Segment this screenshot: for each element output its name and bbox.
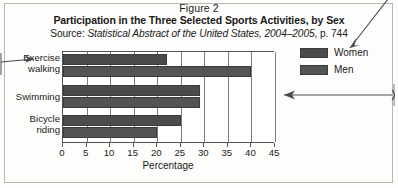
legend-entry-women: Women (300, 45, 386, 60)
legend-swatch-men (300, 65, 328, 75)
figure-heading: Figure 2 Participation in the Three Sele… (0, 2, 398, 40)
bar-group (63, 54, 274, 78)
source-prefix: Source: (50, 28, 87, 39)
bar-women (63, 115, 181, 126)
x-tick-label: 45 (262, 147, 286, 159)
bar-rect (63, 66, 251, 77)
x-tick-label: 25 (168, 147, 192, 159)
category-axis-labels: Exercisewalking Swimming Bicycleriding (0, 51, 60, 143)
x-tick-label: 15 (121, 147, 145, 159)
source-page: , p. 744 (315, 28, 348, 39)
x-tick-label: 0 (50, 147, 74, 159)
bar-women (63, 54, 167, 65)
bar-rect (63, 54, 167, 65)
legend-label-men: Men (334, 64, 353, 75)
legend-label-women: Women (334, 47, 368, 58)
category-label-line: Exercise (2, 52, 60, 63)
figure-source: Source: Statistical Abstract of the Unit… (0, 27, 398, 40)
source-citation: Statistical Abstract of the United State… (87, 28, 314, 39)
x-axis-tick-labels: 051015202530354045 (62, 147, 274, 159)
chart-legend: Women Men (300, 45, 386, 79)
bar-women (63, 85, 200, 96)
category-label-exercise-walking: Exercisewalking (2, 52, 60, 74)
x-tick-label: 10 (97, 147, 121, 159)
bar-men (63, 127, 157, 138)
bar-group (63, 115, 274, 139)
figure-title: Participation in the Three Selected Spor… (0, 14, 398, 27)
bar-rect (63, 115, 181, 126)
category-label-swimming: Swimming (2, 91, 60, 102)
x-axis-title: Percentage (62, 160, 274, 171)
bar-men (63, 97, 200, 108)
x-tick-label: 20 (144, 147, 168, 159)
plot-region (62, 51, 274, 143)
gridline (275, 52, 276, 142)
category-label-line: Swimming (2, 91, 60, 102)
category-label-line: riding (2, 124, 60, 135)
bar-rect (63, 85, 200, 96)
x-tick-label: 30 (191, 147, 215, 159)
category-label-line: Bicycle (2, 113, 60, 124)
legend-swatch-women (300, 48, 328, 58)
category-label-line: walking (2, 63, 60, 74)
x-tick-label: 35 (215, 147, 239, 159)
legend-entry-men: Men (300, 62, 386, 77)
bar-rect (63, 127, 157, 138)
bar-rect (63, 97, 200, 108)
bar-group (63, 85, 274, 109)
figure-number: Figure 2 (0, 2, 398, 14)
bar-men (63, 66, 251, 77)
x-tick-label: 40 (238, 147, 262, 159)
x-tick-label: 5 (74, 147, 98, 159)
category-label-bicycle-riding: Bicycleriding (2, 113, 60, 135)
plot-area (62, 51, 274, 143)
